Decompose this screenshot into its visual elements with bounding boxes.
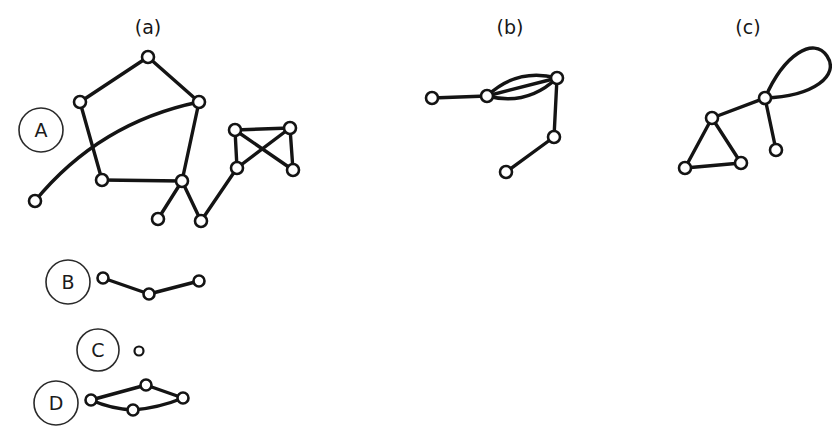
graph-vertex [679, 162, 691, 174]
row-label-letter-C: C [91, 339, 104, 361]
panel-label-layer: (a)(b)(c) [135, 16, 761, 38]
graph-edge [765, 98, 776, 150]
panel-label-a: (a) [135, 16, 161, 38]
graph-vertex [287, 164, 299, 176]
graph-vertex [135, 347, 144, 356]
graph-edge [80, 57, 148, 102]
node-layer [29, 51, 782, 416]
graph-nodes-C-isolated [135, 347, 144, 356]
graph-vertex [194, 276, 205, 287]
graph-edges-A-a [35, 57, 293, 221]
row-label-B: B [46, 260, 90, 304]
graph-vertex [500, 166, 512, 178]
graph-edge [712, 118, 741, 163]
graph-vertex [144, 289, 155, 300]
graph-nodes-A-a [29, 51, 299, 227]
graph-edge [235, 128, 290, 130]
graph-vertex [128, 405, 139, 416]
graph-vertex [759, 92, 771, 104]
graph-vertex [142, 51, 154, 63]
graph-edge [91, 385, 146, 400]
panel-label-b: (b) [497, 16, 524, 38]
graph-edge [685, 118, 712, 168]
graph-vertex [195, 215, 207, 227]
graph-edges-A-b [432, 75, 557, 172]
graph-vertex [86, 395, 97, 406]
graph-edge [148, 57, 199, 102]
graph-vertex [176, 175, 188, 187]
graph-edge [432, 96, 487, 98]
graph-vertex [141, 380, 152, 391]
graph-vertex [735, 157, 747, 169]
graph-vertex [178, 393, 189, 404]
graph-edge [102, 180, 182, 181]
graph-edges-A-c [685, 48, 830, 168]
graph-edge [149, 281, 199, 294]
graph-vertex [770, 144, 782, 156]
graph-vertex [231, 162, 243, 174]
graph-vertex [284, 122, 296, 134]
graph-vertex [481, 90, 493, 102]
graph-edge [201, 168, 237, 221]
graph-nodes-A-c [679, 92, 782, 174]
figure-canvas: ABCD (a)(b)(c) [0, 0, 832, 440]
row-label-layer: ABCD [19, 108, 119, 425]
graph-edge [765, 48, 830, 98]
graph-vertex [548, 131, 560, 143]
graph-vertex [706, 112, 718, 124]
graph-vertex [74, 96, 86, 108]
graph-figure: ABCD (a)(b)(c) [0, 0, 832, 440]
graph-vertex [152, 213, 164, 225]
row-label-D: D [34, 381, 78, 425]
graph-vertex [426, 92, 438, 104]
row-label-letter-A: A [35, 119, 48, 141]
graph-edge [103, 278, 149, 294]
panel-label-c: (c) [735, 16, 760, 38]
row-label-A: A [19, 108, 63, 152]
graph-edge [133, 398, 183, 410]
graph-vertex [193, 96, 205, 108]
row-label-letter-D: D [49, 392, 64, 414]
row-label-C: C [77, 329, 119, 371]
graph-vertex [551, 72, 563, 84]
graph-edge [182, 102, 199, 181]
graph-nodes-B-path [98, 273, 205, 300]
graph-edge [712, 98, 765, 118]
graph-edge [685, 163, 741, 168]
graph-vertex [96, 174, 108, 186]
graph-edge [506, 137, 554, 172]
graph-edge [554, 78, 557, 137]
graph-vertex [29, 195, 41, 207]
graph-vertex [229, 124, 241, 136]
row-label-letter-B: B [61, 271, 74, 293]
graph-vertex [98, 273, 109, 284]
